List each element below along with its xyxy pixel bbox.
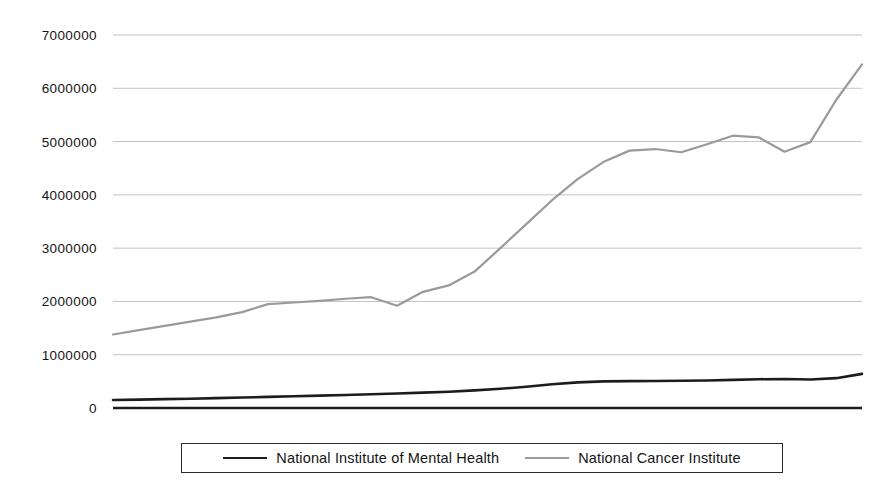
y-axis-tick-label: 2000000 xyxy=(0,294,97,309)
series-line-nimh xyxy=(113,374,862,400)
legend-line-swatch-nimh xyxy=(223,457,267,459)
y-axis-tick-label: 5000000 xyxy=(0,134,97,149)
y-axis-tick-label: 3000000 xyxy=(0,241,97,256)
legend-item-nci: National Cancer Institute xyxy=(525,450,741,466)
y-axis-tick-label: 4000000 xyxy=(0,187,97,202)
gridlines xyxy=(113,35,862,355)
legend-item-nimh: National Institute of Mental Health xyxy=(223,450,499,466)
series-lines xyxy=(113,64,862,400)
y-axis-tick-label: 6000000 xyxy=(0,81,97,96)
plot-area xyxy=(0,0,878,501)
legend-label-nci: National Cancer Institute xyxy=(578,450,741,466)
series-line-nci xyxy=(113,64,862,334)
line-chart: 7000000600000050000004000000300000020000… xyxy=(0,0,878,501)
chart-legend: National Institute of Mental Health Nati… xyxy=(181,443,783,473)
y-axis-tick-label: 7000000 xyxy=(0,28,97,43)
legend-label-nimh: National Institute of Mental Health xyxy=(276,450,499,466)
legend-line-swatch-nci xyxy=(525,457,569,459)
y-axis-tick-label: 0 xyxy=(0,401,97,416)
y-axis-tick-label: 1000000 xyxy=(0,347,97,362)
